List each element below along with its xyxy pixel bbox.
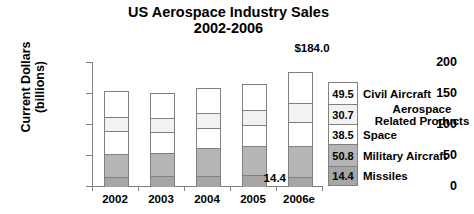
bar-segment-aerospace-related-products-2002[interactable]	[105, 118, 128, 133]
bar-segment-missiles-2004[interactable]	[197, 177, 220, 187]
bar-segment-aerospace-related-products-2005[interactable]	[243, 111, 266, 127]
bar-2005[interactable]	[242, 84, 267, 186]
bar-2004[interactable]	[196, 88, 221, 186]
annotation-missiles-2006e: 14.4	[240, 172, 286, 185]
y-tick-150	[86, 93, 92, 94]
bar-segment-civil-aircraft-2002[interactable]	[105, 92, 128, 118]
bar-segment-civil-aircraft-2005[interactable]	[243, 85, 266, 110]
x-tick-4	[276, 186, 277, 191]
bar-segment-civil-aircraft-2006e[interactable]	[289, 73, 312, 104]
legend-value-aerospace-related-products: 30.7	[329, 109, 357, 121]
x-tick-2	[184, 186, 185, 191]
bar-segment-missiles-2003[interactable]	[151, 177, 174, 187]
legend-label-missiles: Missiles	[363, 170, 474, 183]
bar-segment-military-aircraft-2006e[interactable]	[289, 147, 312, 178]
legend-label-space: Space	[363, 128, 474, 141]
bar-segment-military-aircraft-2002[interactable]	[105, 155, 128, 177]
x-tick-1	[138, 186, 139, 191]
bar-2002[interactable]	[104, 91, 129, 186]
y-axis-title-line1: Current Dollars	[19, 28, 33, 146]
y-tick-100	[86, 124, 92, 125]
bar-segment-space-2005[interactable]	[243, 126, 266, 146]
chart-legend: 49.5Civil Aircraft30.7Aerospace Related …	[328, 82, 358, 186]
legend-value-space: 38.5	[329, 129, 357, 141]
bar-segment-space-2003[interactable]	[151, 133, 174, 153]
bar-segment-military-aircraft-2004[interactable]	[197, 149, 220, 176]
legend-segment-space[interactable]: 38.5Space	[329, 125, 357, 145]
annotation-total-2006e: $184.0	[272, 42, 352, 55]
y-tick-200	[86, 62, 92, 63]
bar-segment-aerospace-related-products-2006e[interactable]	[289, 104, 312, 123]
x-label-2006e: 2006e	[269, 193, 329, 206]
y-tick-label-200: 200	[399, 56, 457, 68]
bar-segment-space-2002[interactable]	[105, 132, 128, 155]
legend-segment-civil-aircraft[interactable]: 49.5Civil Aircraft	[329, 83, 357, 105]
y-axis-title: Current Dollars (billions)	[19, 28, 47, 146]
bar-segment-space-2006e[interactable]	[289, 123, 312, 147]
legend-value-missiles: 14.4	[329, 170, 357, 182]
x-tick-0	[92, 186, 93, 191]
bar-segment-missiles-2002[interactable]	[105, 178, 128, 187]
legend-segment-missiles[interactable]: 14.4Missiles	[329, 167, 357, 185]
bar-segment-missiles-2006e[interactable]	[289, 178, 312, 187]
y-axis-title-line2: (billions)	[33, 28, 47, 146]
legend-value-civil-aircraft: 49.5	[329, 88, 357, 100]
bar-segment-aerospace-related-products-2004[interactable]	[197, 114, 220, 129]
bar-segment-civil-aircraft-2004[interactable]	[197, 89, 220, 114]
bar-2003[interactable]	[150, 93, 175, 186]
legend-segment-aerospace-related-products[interactable]: 30.7Aerospace Related Products	[329, 105, 357, 125]
bar-segment-space-2004[interactable]	[197, 129, 220, 149]
y-axis-line	[92, 62, 93, 187]
bar-segment-aerospace-related-products-2003[interactable]	[151, 119, 174, 133]
legend-segment-military-aircraft[interactable]: 50.8Military Aircraft	[329, 145, 357, 167]
legend-label-military-aircraft: Military Aircraft	[363, 149, 474, 162]
x-tick-3	[230, 186, 231, 191]
legend-value-military-aircraft: 50.8	[329, 150, 357, 162]
legend-label-aerospace-related-products: Aerospace Related Products	[363, 102, 474, 127]
y-tick-50	[86, 155, 92, 156]
legend-label-civil-aircraft: Civil Aircraft	[363, 87, 474, 100]
bar-2006e[interactable]	[288, 72, 313, 186]
x-tick-5	[322, 186, 323, 191]
bar-segment-civil-aircraft-2003[interactable]	[151, 94, 174, 119]
bar-segment-military-aircraft-2003[interactable]	[151, 154, 174, 178]
